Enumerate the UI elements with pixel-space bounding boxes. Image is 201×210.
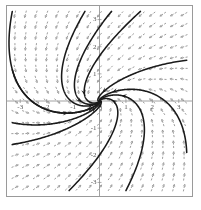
phase-portrait-figure [0, 0, 201, 210]
direction-field-canvas [0, 0, 201, 210]
